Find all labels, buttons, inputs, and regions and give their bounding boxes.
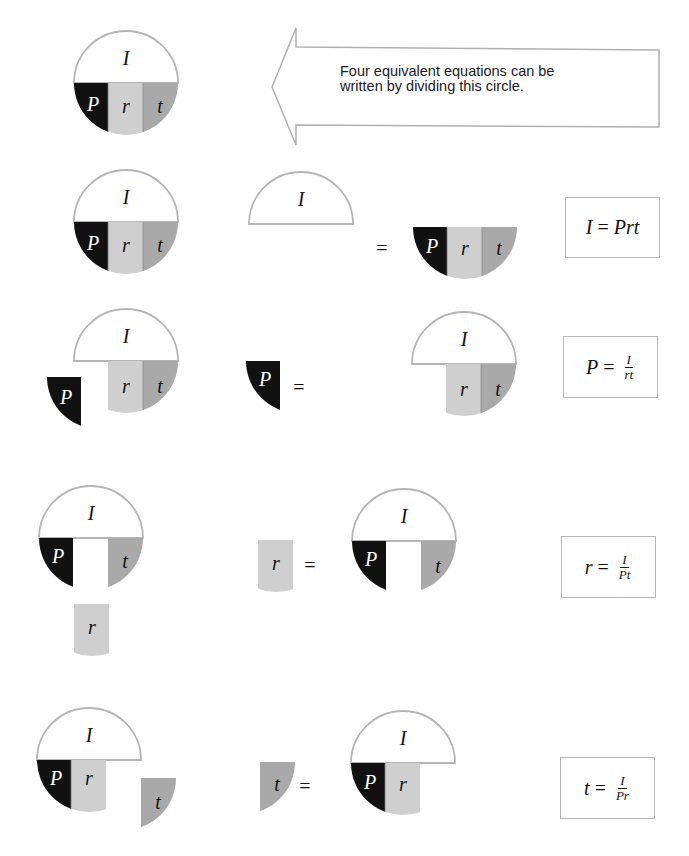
label-P: P [258,368,271,390]
fraction-numerator: I [620,553,628,568]
label-t: t [274,773,280,795]
label-P: P [49,767,62,789]
formula-equals: = [603,356,614,379]
formula-lhs: r [585,556,593,579]
fraction-denominator: Pr [614,789,631,803]
formula-rhs: Prt [614,216,640,239]
fraction: I Pr [614,774,631,803]
label-t: t [496,237,502,259]
label-I: I [122,186,131,208]
label-t: t [435,555,441,577]
row-I-bottom-half: P r t [413,175,517,279]
label-I: I [297,188,306,210]
fraction-denominator: Pt [617,568,633,582]
label-P: P [425,235,438,257]
label-P: P [51,545,64,567]
label-r: r [460,378,468,400]
label-I: I [122,325,131,347]
fraction-denominator: rt [622,368,635,382]
row-I-top-half: I [249,172,353,224]
label-r: r [122,375,130,397]
row-t-lhs-t: t [191,710,295,814]
label-I: I [460,328,469,350]
label-r: r [88,616,96,638]
label-t: t [495,378,501,400]
row-r-rhs: I P t [352,489,456,593]
formula-equals: = [597,556,608,579]
equals-sign: = [376,237,387,259]
row-r-circle-without-r: I P t [39,486,143,590]
label-r: r [122,95,130,117]
label-t: t [157,95,163,117]
formula-equals: = [595,777,606,800]
full-circle-diagram: I P r t [74,31,178,135]
equals-sign: = [293,376,304,398]
formula-box-r: r = I Pt [561,536,656,598]
row-t-circle-without-t: I P r [37,708,141,812]
label-t: t [155,791,161,813]
equals-sign: = [299,775,310,797]
label-r: r [461,237,469,259]
label-P: P [363,771,376,793]
fraction: I Pt [617,553,633,582]
formula-box-P: P = I rt [563,336,658,398]
row-I-circle: I P r t [74,170,178,274]
callout-text: Four equivalent equations can be written… [340,64,580,94]
formula-equals: = [597,216,608,239]
formula-lhs: I [586,216,593,239]
label-t: t [157,234,163,256]
formula-box-t: t = I Pr [560,757,655,819]
label-t: t [157,375,163,397]
row-t-rhs: I P r [351,711,455,815]
label-r: r [85,767,93,789]
label-I: I [87,502,96,524]
label-P: P [59,386,72,408]
fraction: I rt [622,353,635,382]
formula-box-I: I = Prt [565,197,660,258]
label-t: t [122,550,128,572]
label-r: r [272,552,280,574]
fraction-numerator: I [618,774,626,789]
formula-lhs: P [586,356,598,379]
label-P: P [364,548,377,570]
label-I: I [400,505,409,527]
formula-lhs: t [584,777,590,800]
fraction-numerator: I [625,353,633,368]
row-P-circle-without-P: I r t [74,309,178,413]
label-I: I [399,727,408,749]
label-P: P [86,93,99,115]
row-P-rhs: I r t [412,312,516,416]
row-r-lhs-r: r [224,488,328,592]
label-P: P [86,232,99,254]
label-I: I [122,47,131,69]
label-r: r [399,773,407,795]
label-I: I [85,724,94,746]
label-r: r [122,234,130,256]
equals-sign: = [304,554,315,576]
